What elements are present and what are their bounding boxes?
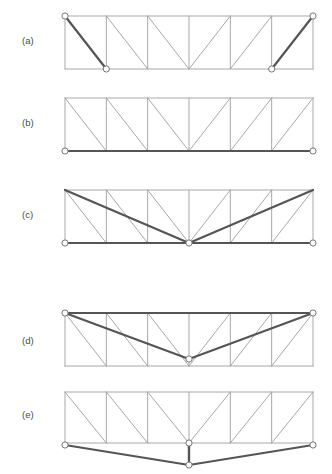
truss-node <box>62 148 68 154</box>
truss-node <box>310 148 316 154</box>
highlighted-diagonal-member <box>189 313 313 359</box>
truss-node <box>269 66 275 72</box>
highlighted-chord-member <box>189 445 313 465</box>
truss-node <box>62 13 68 19</box>
panel-label-b: (b) <box>22 117 34 128</box>
diagonal-member <box>189 98 230 151</box>
diagonal-member <box>272 392 313 443</box>
truss-node <box>62 442 68 448</box>
diagonal-member <box>148 16 189 69</box>
diagonal-member <box>189 392 230 443</box>
diagonal-member <box>106 98 147 151</box>
highlighted-diagonal-member <box>65 190 189 243</box>
truss-node <box>186 462 192 468</box>
truss-node <box>186 440 192 446</box>
truss-panel-a <box>62 13 316 72</box>
diagonal-member <box>189 313 230 366</box>
diagonal-member <box>230 16 271 69</box>
truss-node <box>310 310 316 316</box>
truss-figure: (a)(b)(c)(d)(e) <box>0 0 332 474</box>
panel-label-d: (d) <box>22 335 34 346</box>
truss-panel-e <box>62 392 316 468</box>
truss-panel-b <box>62 98 316 154</box>
truss-panel-d <box>62 310 316 366</box>
highlighted-chord-member <box>65 445 189 465</box>
highlighted-diagonal-member <box>189 190 313 243</box>
truss-node <box>310 442 316 448</box>
truss-node <box>103 66 109 72</box>
truss-node <box>62 240 68 246</box>
diagonal-member <box>148 98 189 151</box>
diagonal-member <box>106 392 147 443</box>
diagonal-member <box>65 98 106 151</box>
diagonal-member <box>230 98 271 151</box>
truss-diagram-svg: (a)(b)(c)(d)(e) <box>0 0 332 474</box>
truss-node <box>186 356 192 362</box>
truss-node <box>310 13 316 19</box>
highlighted-diagonal-member <box>65 313 189 359</box>
truss-node <box>310 240 316 246</box>
diagonal-member <box>148 392 189 443</box>
highlighted-diagonal-member <box>272 16 313 69</box>
diagonal-member <box>148 313 189 366</box>
truss-node <box>62 310 68 316</box>
diagonal-member <box>65 392 106 443</box>
diagonal-member <box>106 313 147 366</box>
truss-node <box>186 240 192 246</box>
panel-label-c: (c) <box>22 209 33 220</box>
panel-label-e: (e) <box>22 409 34 420</box>
diagonal-member <box>106 16 147 69</box>
diagonal-member <box>230 313 271 366</box>
diagonal-member <box>230 392 271 443</box>
diagonal-member <box>189 16 230 69</box>
highlighted-diagonal-member <box>65 16 106 69</box>
panel-label-a: (a) <box>22 35 34 46</box>
diagonal-member <box>272 98 313 151</box>
truss-panel-c <box>62 190 316 246</box>
